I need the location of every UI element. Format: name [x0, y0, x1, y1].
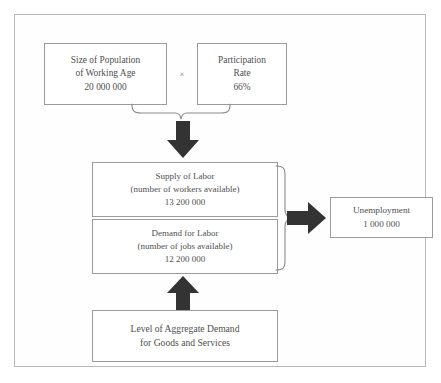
multiplication-sign-icon: ×: [167, 63, 197, 85]
arrow-up-icon: [166, 276, 200, 312]
arrow-right-icon: [287, 201, 327, 235]
population-line-2: of Working Age: [75, 67, 135, 80]
node-box-population: Size of Population of Working Age 20 000…: [44, 43, 167, 105]
diagram-frame: Size of Population of Working Age 20 000…: [14, 14, 426, 367]
demand-value: 12 200 000: [165, 253, 206, 266]
unemployment-value: 1 000 000: [363, 218, 400, 231]
brace-joining-population-and-participation: [131, 103, 231, 123]
participation-line-2: Rate: [233, 67, 250, 80]
node-box-participation-rate: Participation Rate 66%: [197, 43, 287, 105]
supply-line-1: Supply of Labor: [156, 170, 215, 183]
node-box-demand-for-labor: Demand for Labor (number of jobs availab…: [92, 219, 278, 274]
unemployment-label: Unemployment: [353, 204, 410, 217]
aggregate-line-2: for Goods and Services: [140, 336, 230, 350]
arrow-down-icon: [166, 121, 200, 159]
node-box-supply-of-labor: Supply of Labor (number of workers avail…: [92, 162, 278, 217]
population-line-1: Size of Population: [71, 54, 140, 67]
demand-line-2: (number of jobs available): [137, 240, 232, 253]
aggregate-line-1: Level of Aggregate Demand: [131, 322, 240, 336]
node-box-unemployment: Unemployment 1 000 000: [330, 197, 433, 238]
supply-value: 13 200 000: [165, 196, 206, 209]
participation-value: 66%: [233, 81, 250, 94]
demand-line-1: Demand for Labor: [152, 227, 219, 240]
participation-line-1: Participation: [218, 54, 266, 67]
brace-joining-supply-and-demand: [275, 165, 295, 271]
supply-line-2: (number of workers available): [130, 183, 239, 196]
population-value: 20 000 000: [84, 81, 126, 94]
node-box-aggregate-demand: Level of Aggregate Demand for Goods and …: [92, 310, 278, 362]
